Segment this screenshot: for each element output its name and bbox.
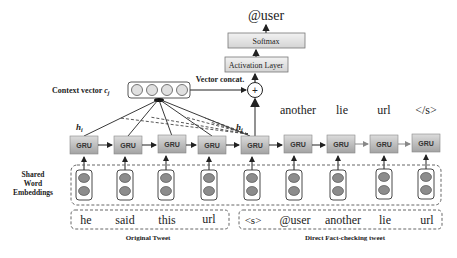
plus-icon: + (252, 85, 258, 96)
vector-concat-label: Vector concat. (196, 75, 244, 84)
fact-check-tweet-caption: Direct Fact-checking tweet (305, 234, 386, 242)
embedding-cell (201, 170, 217, 200)
svg-text:GRU: GRU (333, 141, 349, 148)
fact-check-token: lie (379, 213, 391, 227)
svg-text:GRU: GRU (120, 142, 136, 149)
concat-node: + (248, 83, 263, 98)
embedding-cell (76, 170, 92, 200)
original-token: he (80, 213, 91, 227)
context-vector-label: Context vector cj (52, 86, 110, 96)
gru-unit: GRU (158, 135, 186, 153)
context-vector (128, 82, 190, 98)
svg-text:GRU: GRU (376, 141, 392, 148)
embedding-cells (76, 169, 434, 200)
hi-label: hi (76, 122, 83, 133)
svg-text:GRU: GRU (76, 142, 92, 149)
embedding-arrows (84, 155, 426, 170)
gru-unit: GRU (114, 136, 142, 154)
embedding-cell (117, 170, 133, 200)
embedding-cell (244, 170, 260, 200)
svg-text:GRU: GRU (164, 141, 180, 148)
gru-row: GRU GRU GRU GRU GRU GRU GRU GRU GRU (70, 134, 440, 154)
svg-text:GRU: GRU (290, 141, 306, 148)
activation-label: Activation Layer (229, 61, 284, 70)
original-token: url (202, 212, 216, 226)
gru-unit: GRU (70, 136, 98, 154)
embeddings-label-line2: Word (24, 179, 43, 188)
gru-unit: GRU (412, 134, 440, 152)
gru-unit: GRU (327, 135, 355, 153)
decoder-output-word: lie (336, 103, 348, 117)
decoder-output-word: </s> (415, 103, 437, 117)
original-tweet-caption: Original Tweet (126, 234, 171, 242)
embedding-cell (330, 170, 346, 200)
gru-unit: GRU (198, 136, 226, 154)
alignment-dashed-lines (120, 117, 248, 134)
fact-check-token: @user (279, 213, 310, 227)
decoder-output-word: url (377, 103, 391, 117)
svg-text:GRU: GRU (247, 142, 263, 149)
embedding-cell (376, 169, 392, 199)
gru-unit: GRU (370, 135, 398, 153)
softmax-label: Softmax (252, 37, 279, 46)
gru-unit: GRU (241, 136, 269, 154)
embedding-cell (286, 170, 302, 200)
fact-check-token: <s> (245, 214, 262, 226)
fact-check-token: url (420, 213, 434, 227)
attention-lines (84, 100, 250, 136)
svg-text:GRU: GRU (204, 142, 220, 149)
activation-layer: Activation Layer (225, 57, 288, 72)
embedding-cell (158, 170, 174, 200)
decoder-output-word: another (280, 103, 316, 117)
gru-unit: GRU (284, 135, 312, 153)
embeddings-label-line3: Embeddings (13, 188, 53, 197)
embeddings-label-line1: Shared (22, 170, 46, 179)
original-token: said (115, 213, 134, 227)
embedding-cell (418, 169, 434, 199)
seq2seq-architecture-diagram: @user Softmax Activation Layer + Vector … (0, 0, 457, 258)
original-token: this (158, 213, 176, 227)
fact-check-token: another (325, 213, 361, 227)
hj-label: hj (236, 122, 243, 133)
output-label: @user (248, 8, 285, 23)
softmax-layer: Softmax (228, 33, 305, 48)
svg-text:GRU: GRU (418, 140, 434, 147)
